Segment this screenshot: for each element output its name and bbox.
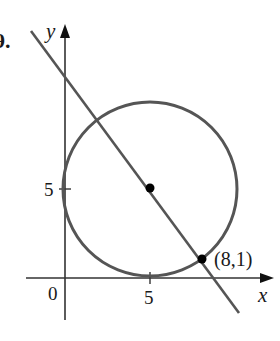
x-axis-label: x bbox=[257, 283, 268, 307]
point-label: (8,1) bbox=[214, 248, 252, 271]
problem-number: 9. bbox=[0, 28, 11, 53]
line bbox=[31, 31, 239, 313]
x-axis-arrow-icon bbox=[260, 273, 274, 283]
origin-label: 0 bbox=[48, 283, 58, 304]
center-point bbox=[146, 184, 155, 193]
x-tick-label: 5 bbox=[144, 287, 154, 308]
intersection-point bbox=[198, 255, 207, 264]
y-tick-label: 5 bbox=[44, 179, 54, 200]
y-axis-label: y bbox=[44, 19, 56, 43]
diagram-canvas: 9. y x 5 5 0 (8,1) bbox=[0, 0, 280, 341]
y-axis-arrow-icon bbox=[60, 24, 70, 38]
